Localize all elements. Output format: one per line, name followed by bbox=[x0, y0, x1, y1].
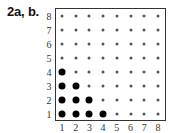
grid-dot bbox=[61, 42, 64, 45]
grid-dot bbox=[115, 28, 118, 31]
y-tick-label: 4 bbox=[47, 66, 52, 77]
grid-dot bbox=[129, 42, 132, 45]
grid-dot bbox=[143, 28, 146, 31]
grid-dot bbox=[129, 56, 132, 59]
grid-dot bbox=[115, 84, 118, 87]
highlighted-dot bbox=[59, 110, 66, 117]
grid-dot bbox=[143, 70, 146, 73]
grid-dot bbox=[74, 70, 77, 73]
grid-dot bbox=[156, 28, 159, 31]
dot-grid-frame bbox=[55, 8, 166, 121]
y-tick-label: 8 bbox=[47, 10, 52, 21]
highlighted-dot bbox=[59, 96, 66, 103]
grid-dot bbox=[102, 28, 105, 31]
grid-dot bbox=[129, 28, 132, 31]
highlighted-dot bbox=[72, 110, 79, 117]
x-tick-label: 2 bbox=[73, 122, 78, 133]
grid-dot bbox=[156, 14, 159, 17]
grid-dot bbox=[115, 56, 118, 59]
highlighted-dot bbox=[72, 82, 79, 89]
grid-dot bbox=[88, 14, 91, 17]
highlighted-dot bbox=[86, 96, 93, 103]
y-tick-label: 2 bbox=[47, 94, 52, 105]
grid-dot bbox=[115, 98, 118, 101]
grid-dot bbox=[156, 84, 159, 87]
grid-dot bbox=[156, 42, 159, 45]
grid-dot bbox=[129, 14, 132, 17]
grid-dot bbox=[156, 56, 159, 59]
grid-dot bbox=[115, 42, 118, 45]
highlighted-dot bbox=[59, 68, 66, 75]
grid-dot bbox=[74, 28, 77, 31]
x-tick-label: 4 bbox=[101, 122, 106, 133]
grid-dot bbox=[115, 14, 118, 17]
grid-dot bbox=[143, 42, 146, 45]
highlighted-dot bbox=[72, 96, 79, 103]
x-tick-label: 5 bbox=[114, 122, 119, 133]
x-tick-label: 8 bbox=[155, 122, 160, 133]
y-tick-label: 7 bbox=[47, 24, 52, 35]
grid-dot bbox=[115, 70, 118, 73]
grid-dot bbox=[143, 112, 146, 115]
grid-dot bbox=[143, 14, 146, 17]
grid-dot bbox=[143, 56, 146, 59]
grid-dot bbox=[88, 56, 91, 59]
highlighted-dot bbox=[86, 110, 93, 117]
grid-dot bbox=[102, 56, 105, 59]
grid-dot bbox=[129, 84, 132, 87]
grid-dot bbox=[74, 56, 77, 59]
grid-dot bbox=[61, 56, 64, 59]
x-tick-label: 7 bbox=[142, 122, 147, 133]
grid-dot bbox=[129, 70, 132, 73]
grid-dot bbox=[102, 98, 105, 101]
highlighted-dot bbox=[59, 82, 66, 89]
highlighted-dot bbox=[100, 110, 107, 117]
grid-dot bbox=[88, 70, 91, 73]
grid-dot bbox=[129, 112, 132, 115]
grid-dot bbox=[102, 14, 105, 17]
x-tick-label: 1 bbox=[60, 122, 65, 133]
x-tick-label: 6 bbox=[128, 122, 133, 133]
grid-dot bbox=[156, 112, 159, 115]
grid-dot bbox=[102, 70, 105, 73]
problem-label: 2a, b. bbox=[7, 4, 39, 19]
y-tick-label: 3 bbox=[47, 80, 52, 91]
grid-dot bbox=[61, 14, 64, 17]
grid-dot bbox=[74, 14, 77, 17]
grid-dot bbox=[115, 112, 118, 115]
y-tick-label: 5 bbox=[47, 52, 52, 63]
grid-dot bbox=[88, 28, 91, 31]
y-tick-label: 6 bbox=[47, 38, 52, 49]
grid-dot bbox=[143, 84, 146, 87]
grid-dot bbox=[61, 28, 64, 31]
grid-dot bbox=[143, 98, 146, 101]
grid-dot bbox=[88, 84, 91, 87]
grid-dot bbox=[156, 98, 159, 101]
grid-dot bbox=[102, 84, 105, 87]
grid-dot bbox=[88, 42, 91, 45]
x-tick-label: 3 bbox=[87, 122, 92, 133]
grid-dot bbox=[74, 42, 77, 45]
y-tick-label: 1 bbox=[47, 108, 52, 119]
grid-dot bbox=[129, 98, 132, 101]
grid-dot bbox=[156, 70, 159, 73]
grid-dot bbox=[102, 42, 105, 45]
